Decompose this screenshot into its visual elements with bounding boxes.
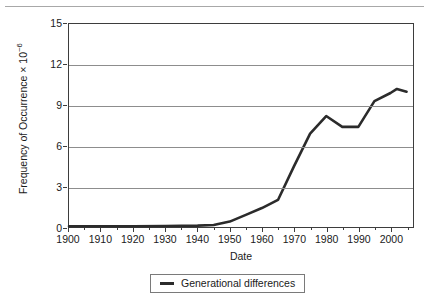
y-axis: 03691215: [36, 23, 62, 228]
x-tick-mark-minor-1915: [117, 228, 118, 230]
y-tick-label-0: 0: [38, 223, 62, 234]
x-tick-label-2000: 2000: [371, 234, 411, 245]
y-tick-label-12: 12: [38, 59, 62, 70]
x-tick-mark-minor-1905: [84, 228, 85, 230]
x-axis-title: Date: [68, 250, 414, 262]
gridline-y-9: [69, 106, 413, 107]
x-tick-mark-2000: [391, 228, 392, 232]
chart-legend: Generational differences: [150, 274, 305, 293]
chart-figure: 03691215 Frequency of Occurrence × 10−6 …: [0, 0, 429, 300]
y-tick-label-15: 15: [38, 18, 62, 29]
series-line-generational-differences: [69, 24, 413, 227]
x-tick-mark-1920: [133, 228, 134, 232]
y-axis-title-text: Frequency of Occurrence × 10: [17, 52, 29, 194]
y-tick-mark-0: [63, 228, 67, 229]
x-axis: 1900191019201930194019501960197019801990…: [68, 228, 414, 252]
y-tick-label-3: 3: [38, 182, 62, 193]
x-tick-mark-minor-2005: [408, 228, 409, 230]
y-tick-label-6: 6: [38, 141, 62, 152]
gridline-y-6: [69, 147, 413, 148]
y-axis-title: Frequency of Occurrence × 10−6: [15, 19, 29, 219]
x-tick-mark-minor-1965: [278, 228, 279, 230]
x-tick-mark-1900: [68, 228, 69, 232]
x-tick-mark-1980: [327, 228, 328, 232]
y-axis-title-exponent: −6: [15, 43, 24, 52]
x-tick-mark-minor-1945: [214, 228, 215, 230]
x-tick-mark-1910: [100, 228, 101, 232]
plot-area: [68, 23, 414, 228]
x-tick-mark-minor-1985: [343, 228, 344, 230]
x-tick-mark-1950: [230, 228, 231, 232]
y-tick-mark-3: [63, 187, 67, 188]
y-tick-mark-6: [63, 146, 67, 147]
x-tick-mark-minor-1955: [246, 228, 247, 230]
y-tick-mark-15: [63, 23, 67, 24]
x-tick-mark-1990: [359, 228, 360, 232]
legend-line-swatch: [160, 282, 174, 285]
y-tick-mark-9: [63, 105, 67, 106]
x-tick-mark-1940: [197, 228, 198, 232]
x-tick-mark-1960: [262, 228, 263, 232]
header-divider: [5, 6, 424, 7]
gridline-y-3: [69, 188, 413, 189]
y-tick-label-9: 9: [38, 100, 62, 111]
x-tick-mark-1930: [165, 228, 166, 232]
x-tick-mark-minor-1995: [375, 228, 376, 230]
legend-label-generational-differences: Generational differences: [181, 278, 295, 289]
y-tick-mark-12: [63, 64, 67, 65]
x-tick-mark-1970: [294, 228, 295, 232]
gridline-y-12: [69, 65, 413, 66]
x-tick-mark-minor-1975: [311, 228, 312, 230]
x-tick-mark-minor-1935: [181, 228, 182, 230]
x-tick-mark-minor-1925: [149, 228, 150, 230]
